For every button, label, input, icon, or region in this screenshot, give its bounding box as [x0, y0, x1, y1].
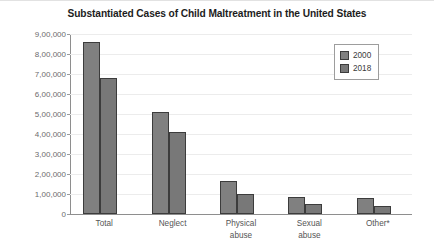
legend-item-label: 2018 [353, 64, 371, 73]
bar-2018-sexual-abuse[interactable] [305, 204, 322, 214]
y-axis-tick-label: 6,00,000 [4, 90, 66, 99]
bar-2000-other[interactable] [357, 198, 374, 214]
legend-item-2018[interactable]: 2018 [340, 62, 371, 75]
bar-2000-sexual-abuse[interactable] [288, 197, 305, 214]
bar-2018-physical-abuse[interactable] [237, 194, 254, 214]
legend-swatch-icon [340, 64, 349, 73]
y-axis-tick-label: 7,00,000 [4, 70, 66, 79]
bar-2018-total[interactable] [100, 78, 117, 214]
x-axis-baseline [70, 214, 412, 215]
bar-2000-neglect[interactable] [152, 112, 169, 214]
bar-2018-neglect[interactable] [169, 132, 186, 214]
x-axis-label-other: Other* [344, 218, 412, 230]
bar-chart: Substantiated Cases of Child Maltreatmen… [0, 0, 434, 249]
bar-2000-physical-abuse[interactable] [220, 181, 237, 214]
legend-swatch-icon [340, 51, 349, 60]
bar-group [83, 34, 117, 214]
x-axis-label-neglect: Neglect [138, 218, 206, 230]
chart-title: Substantiated Cases of Child Maltreatmen… [0, 8, 434, 19]
legend-item-label: 2000 [353, 51, 371, 60]
y-axis-tick-label: 9,00,000 [4, 30, 66, 39]
bar-group [288, 34, 322, 214]
x-axis-label-total: Total [70, 218, 138, 230]
bar-group [152, 34, 186, 214]
x-axis-label-physical-abuse: Physicalabuse [207, 218, 275, 241]
y-axis-tick-label: 3,00,000 [4, 150, 66, 159]
y-axis-tick-label: 1,00,000 [4, 190, 66, 199]
y-axis-tick-label: 8,00,000 [4, 50, 66, 59]
y-axis-tick-label: 0 [4, 210, 66, 219]
y-axis-tick-label: 5,00,000 [4, 110, 66, 119]
y-axis-tick-label: 2,00,000 [4, 170, 66, 179]
y-axis-ticks: 01,00,0002,00,0003,00,0004,00,0005,00,00… [0, 34, 66, 215]
x-axis-label-sexual-abuse: Sexualabuse [275, 218, 343, 241]
bar-2018-other[interactable] [374, 206, 391, 214]
bar-group [220, 34, 254, 214]
legend-item-2000[interactable]: 2000 [340, 49, 371, 62]
chart-legend: 20002018 [334, 44, 379, 80]
y-axis-tick-label: 4,00,000 [4, 130, 66, 139]
bar-2000-total[interactable] [83, 42, 100, 214]
